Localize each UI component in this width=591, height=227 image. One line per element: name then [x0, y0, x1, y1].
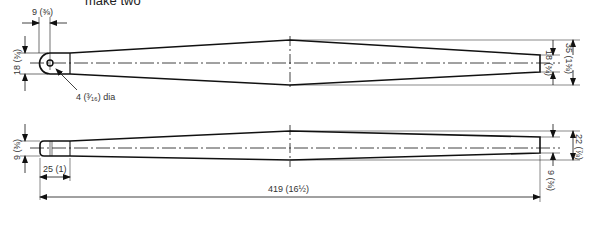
dim-max-width: 35 (1⅜) [564, 43, 574, 74]
drawing-title: make two [85, 0, 141, 8]
dim-tip-thickness: 9 (⅜) [546, 170, 556, 191]
top-view [20, 17, 580, 91]
dim-end-thickness: 9 (⅜) [12, 139, 22, 160]
dim-overall-length: 419 (16½) [268, 184, 309, 194]
dim-tip-width: 18 (¾) [544, 50, 554, 76]
dim-end-radius-offset: 9 (⅜) [32, 7, 53, 17]
hole-leader [56, 69, 77, 90]
dim-hole-diameter: 4 (³⁄₁₆) dia [76, 92, 115, 102]
dim-max-thickness: 22 (⅞) [574, 134, 584, 160]
technical-drawing: make two 9 (⅜) 18 (¾) 4 (³⁄₁₆) [0, 0, 591, 227]
dim-end-width: 18 (¾) [12, 49, 22, 75]
dim-tenon-length: 25 (1) [43, 164, 67, 174]
